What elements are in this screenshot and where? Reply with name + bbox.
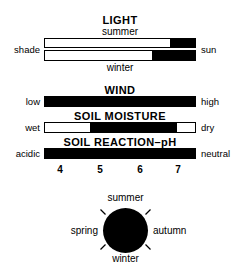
soil-moisture-right-label: dry [201, 123, 251, 133]
season-wheel-spring-label: spring [0, 226, 98, 236]
light-summer-bar [44, 38, 196, 48]
light-winter-bar [44, 50, 196, 61]
wind-right-label: high [201, 97, 251, 107]
season-wheel: summer spring autumn winter [0, 188, 251, 259]
wind-left-label: low [0, 97, 40, 107]
wind-bar-fill [44, 96, 196, 107]
season-wheel-disc [103, 208, 148, 253]
light-winter-bar-fill [152, 51, 196, 60]
soil-reaction-left-label: acidic [0, 149, 40, 159]
soil-moisture-left-label: wet [0, 123, 40, 133]
light-summer-label: summer [44, 27, 196, 37]
light-winter-label: winter [44, 63, 196, 73]
season-wheel-winter-label: winter [72, 254, 179, 264]
light-left-label: shade [0, 45, 40, 55]
light-right-label: sun [201, 45, 251, 55]
soil-reaction-bar [44, 148, 196, 159]
wind-bar [44, 96, 196, 107]
ph-tick-7: 7 [168, 165, 188, 175]
soil-reaction-bar-fill [44, 148, 196, 159]
soil-moisture-bar-fill [90, 123, 177, 132]
soil-reaction-section-title: SOIL REACTION–pH [44, 137, 196, 148]
ph-tick-5: 5 [90, 165, 110, 175]
ph-tick-6: 6 [130, 165, 150, 175]
light-summer-bar-fill [170, 39, 196, 47]
soil-moisture-section-title: SOIL MOISTURE [44, 111, 196, 122]
wind-section-title: WIND [44, 85, 196, 96]
soil-reaction-right-label: neutral [201, 149, 251, 159]
ph-tick-4: 4 [50, 165, 70, 175]
light-section-title: LIGHT [44, 15, 196, 26]
season-wheel-autumn-label: autumn [153, 226, 243, 236]
soil-moisture-bar [44, 122, 196, 133]
